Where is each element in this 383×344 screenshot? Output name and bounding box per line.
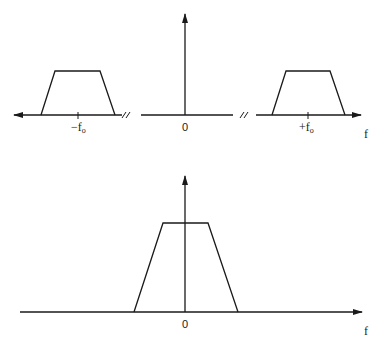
break-mark-right [240, 112, 248, 118]
break-mark-left [122, 112, 130, 118]
right-spectrum-trapezoid [272, 71, 345, 115]
baseband-spectrum-trapezoid [134, 223, 238, 312]
zero-label-top: 0 [182, 121, 188, 133]
neg-f0-label: −fo [71, 120, 86, 135]
bottom-plot: 0 f [20, 176, 368, 338]
top-plot: −fo 0 +fo f [14, 14, 368, 141]
pos-f0-label: +fo [299, 120, 314, 135]
f-axis-label-top: f [364, 127, 368, 141]
zero-label-bottom: 0 [182, 318, 188, 330]
spectrum-diagram: −fo 0 +fo f 0 f [0, 0, 383, 344]
f-axis-label-bottom: f [364, 324, 368, 338]
left-spectrum-trapezoid [41, 71, 115, 115]
